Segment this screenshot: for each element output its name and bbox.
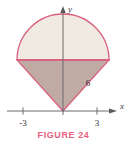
x-tick-label-3: 3 [95,118,100,128]
x-tick-label-minus3: -3 [19,118,27,128]
figure-container: -3 3 y x 6 FIGURE 24 [0,0,127,150]
y-axis-arrowhead [60,6,65,13]
x-axis-arrowhead [109,108,117,113]
y-axis-label: y [67,4,72,14]
x-axis-label: x [119,101,124,111]
slant-length-label: 6 [86,78,91,88]
figure-graphic: -3 3 y x 6 [0,0,127,150]
figure-caption: FIGURE 24 [0,130,127,140]
